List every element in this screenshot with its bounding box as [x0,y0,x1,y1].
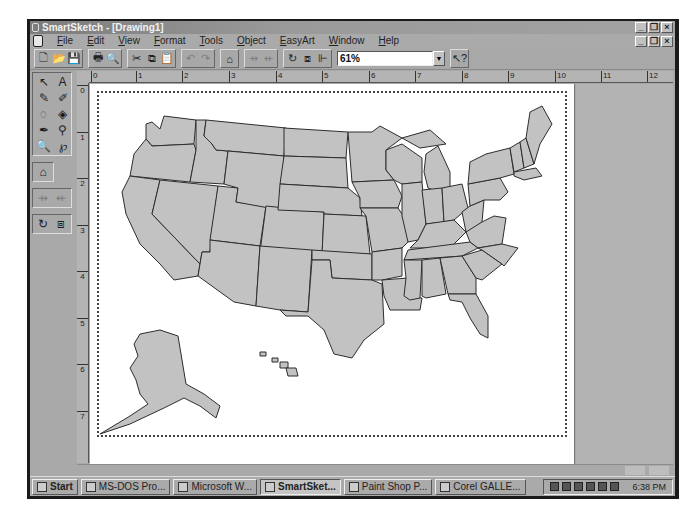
zoom-tool-icon[interactable]: 🔍 [35,139,52,153]
copy-icon[interactable]: ⧉ [144,51,159,66]
menu-view[interactable]: View [111,34,147,48]
document-icon[interactable] [33,35,43,47]
brush-tool-icon[interactable]: ✐ [54,91,71,105]
rotate-icon[interactable]: ↻ [285,51,300,66]
group-tool-row: ⇸ ⇷ [32,188,72,208]
word-icon [178,482,188,492]
zoom-dropdown-button[interactable]: ▼ [433,51,445,66]
bring-forward-icon[interactable]: ⧈ [53,217,69,231]
undo-icon[interactable]: ↶ [183,51,198,66]
select-arrow-icon[interactable]: ↖ [35,75,52,89]
close-button[interactable]: × [661,22,673,33]
taskbar: Start MS-DOS Pro... Microsoft W... Smart… [30,476,675,496]
menu-format[interactable]: Format [147,34,193,48]
transform-tool-row: ↻ ⧈ [32,214,72,234]
app-window: SmartSketch - [Drawing1] _ ❐ × File Edit… [30,21,675,496]
pencil-tool-icon[interactable]: ✎ [35,91,52,105]
lasso-tool-icon[interactable]: ◌ [35,107,52,121]
clipboard-toolbar-group: ✂ ⧉ 📋 [127,49,176,68]
menu-easyart[interactable]: EasyArt [273,34,322,48]
group-icon[interactable]: ⇸ [246,51,261,66]
ungroup-icon[interactable]: ⇷ [53,191,69,205]
horizontal-ruler[interactable]: 0 1 2 3 4 5 6 7 8 9 10 11 12 [89,71,673,83]
drawing-tools-grid: ↖ A ✎ ✐ ◌ ◈ ✒ ⚲ 🔍 ℘ [32,72,72,156]
drawing-canvas[interactable] [90,84,575,464]
off-page-area [576,84,673,464]
group-toolbar-group: ⇸ ⇷ [244,49,278,68]
menu-file[interactable]: File [50,34,80,48]
arrange-toolbar-group: ↻ ⧈ ⊩ [283,49,332,68]
corel-gallery-icon [440,482,450,492]
context-help-icon[interactable]: ↖? [452,51,467,66]
document-window-controls: _ ❐ × [635,36,673,47]
cut-icon[interactable]: ✂ [129,51,144,66]
easyart-gallery-icon[interactable]: ⌂ [35,165,51,179]
ungroup-icon[interactable]: ⇷ [261,51,276,66]
paste-icon[interactable]: 📋 [159,51,174,66]
horizontal-scrollbar[interactable] [77,464,673,476]
smartsketch-icon [265,482,275,492]
text-tool-icon[interactable]: A [54,75,71,89]
menu-window[interactable]: Window [322,34,372,48]
menu-tools[interactable]: Tools [193,34,230,48]
gallery-toolbar-group: ⌂ [220,49,239,68]
doc-restore-button[interactable]: ❐ [648,36,660,47]
task-ms-dos[interactable]: MS-DOS Pro... [81,479,171,495]
task-corel-gallery[interactable]: Corel GALLE... [435,479,525,495]
ruler-corner [77,71,89,83]
smartsketch-app-icon[interactable] [32,23,39,32]
align-icon[interactable]: ⊩ [315,51,330,66]
doc-close-button[interactable]: × [661,36,673,47]
standard-toolbar: 🗋 📂 💾 🖶 🔍 ✂ ⧉ 📋 ↶ ↷ ⌂ ⇸ ⇷ ↻ ⧈ ⊩ [30,48,675,70]
tray-app-icon[interactable] [586,482,595,491]
easyart-gallery-icon[interactable]: ⌂ [222,51,237,66]
tray-app-icon[interactable] [574,482,583,491]
drawing-toolbox: ↖ A ✎ ✐ ◌ ◈ ✒ ⚲ 🔍 ℘ ⌂ ⇸ ⇷ ↻ ⧈ [32,72,72,234]
scroll-left-button[interactable] [625,466,645,475]
menu-object[interactable]: Object [230,34,273,48]
pen-tool-icon[interactable]: ✒ [35,123,52,137]
network-icon[interactable] [550,482,559,491]
windows-logo-icon [37,482,47,492]
window-controls: _ ❐ × [635,22,673,33]
minimize-button[interactable]: _ [635,22,647,33]
file-toolbar-group: 🗋 📂 💾 [34,49,83,68]
history-toolbar-group: ↶ ↷ [181,49,215,68]
title-bar[interactable]: SmartSketch - [Drawing1] _ ❐ × [30,21,675,34]
rotate-icon[interactable]: ↻ [35,217,51,231]
scroll-right-button[interactable] [649,466,669,475]
save-icon[interactable]: 💾 [66,51,81,66]
zoom-level-input[interactable]: 61% [337,51,433,66]
start-button[interactable]: Start [32,479,78,495]
eyedropper-icon[interactable]: ⚲ [54,123,71,137]
freeform-shape-icon[interactable]: ℘ [54,139,71,153]
print-icon[interactable]: 🖶 [90,51,105,66]
gallery-tool-row: ⌂ [32,162,54,182]
menu-bar: File Edit View Format Tools Object EasyA… [30,34,675,48]
window-title: SmartSketch - [Drawing1] [42,22,164,33]
print-preview-icon[interactable]: 🔍 [105,51,120,66]
open-folder-icon[interactable]: 📂 [51,51,66,66]
vertical-ruler[interactable]: 0 1 2 3 4 5 6 7 [77,83,89,463]
volume-icon[interactable] [562,482,571,491]
redo-icon[interactable]: ↷ [198,51,213,66]
doc-minimize-button[interactable]: _ [635,36,647,47]
bring-forward-icon[interactable]: ⧈ [300,51,315,66]
group-icon[interactable]: ⇸ [35,191,51,205]
ms-dos-icon [86,482,96,492]
taskbar-clock[interactable]: 6:38 PM [632,482,666,492]
menu-help[interactable]: Help [371,34,406,48]
tray-app-icon[interactable] [598,482,607,491]
fill-bucket-icon[interactable]: ◈ [54,107,71,121]
task-microsoft-word[interactable]: Microsoft W... [173,479,257,495]
new-document-icon[interactable]: 🗋 [36,51,51,66]
menu-edit[interactable]: Edit [80,34,111,48]
desktop-screen: SmartSketch - [Drawing1] _ ❐ × File Edit… [27,19,679,499]
restore-button[interactable]: ❐ [648,22,660,33]
tray-app-icon[interactable] [610,482,619,491]
task-smartsketch[interactable]: SmartSket... [260,479,341,495]
paint-shop-icon [349,482,359,492]
help-toolbar-group: ↖? [450,49,469,68]
us-map-drawing[interactable] [90,84,575,464]
task-paint-shop[interactable]: Paint Shop P... [344,479,432,495]
